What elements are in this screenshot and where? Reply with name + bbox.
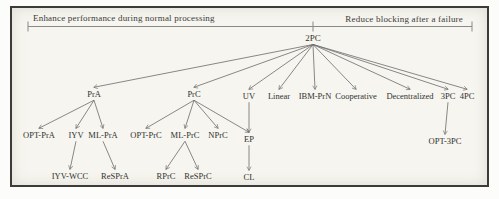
node-linear: Linear xyxy=(267,91,291,102)
node-ep: EP xyxy=(243,134,255,145)
node-prc: PrC xyxy=(186,89,201,100)
protocol-taxonomy-diagram: Enhance performance during normal proces… xyxy=(0,0,499,199)
node-ml-prc: ML-PrC xyxy=(170,130,201,141)
node-3pc: 3PC xyxy=(440,91,457,102)
node-iyv: IYV xyxy=(67,130,84,141)
node-ml-pra: ML-PrA xyxy=(87,130,118,141)
bracket-label-left: Enhance performance during normal proces… xyxy=(33,13,215,23)
node-iyv-wcc: IYV-WCC xyxy=(51,171,90,182)
node-opt-3pc: OPT-3PC xyxy=(428,136,463,147)
node-opt-prc: OPT-PrC xyxy=(129,130,162,141)
node-ibm-prn: IBM-PrN xyxy=(298,91,333,102)
node-rprc: RPrC xyxy=(156,171,177,182)
node-cl: CL xyxy=(243,172,256,183)
node-uv: UV xyxy=(242,91,256,102)
bracket-label-right: Reduce blocking after a failure xyxy=(345,14,463,24)
node-4pc: 4PC xyxy=(459,91,476,102)
node-nprc: NPrC xyxy=(207,130,228,141)
node-pra: PrA xyxy=(86,89,102,100)
node-decentralized: Decentralized xyxy=(385,91,434,102)
node-2pc: 2PC xyxy=(304,33,322,44)
node-opt-pra: OPT-PrA xyxy=(22,130,56,141)
node-respra: ReSPrA xyxy=(100,171,130,182)
node-resprc: ReSPrC xyxy=(183,171,212,182)
node-cooperative: Cooperative xyxy=(334,91,378,102)
